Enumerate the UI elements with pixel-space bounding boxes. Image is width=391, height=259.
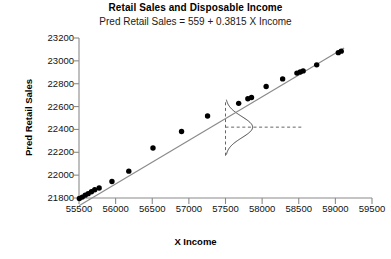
data-point	[179, 129, 184, 134]
data-point	[236, 101, 241, 106]
data-point	[96, 185, 101, 190]
x-axis-ticks	[79, 198, 372, 204]
data-point	[300, 68, 305, 73]
data-point	[263, 84, 268, 89]
plot-area	[0, 0, 391, 259]
data-points	[77, 48, 344, 201]
data-point	[205, 113, 210, 118]
data-point	[126, 168, 131, 173]
data-point	[280, 76, 285, 81]
data-point	[109, 179, 114, 184]
axes	[73, 38, 372, 204]
y-axis-ticks	[73, 38, 79, 198]
data-point	[150, 145, 155, 150]
chart-figure: Retail Sales and Disposable Income Pred …	[0, 0, 391, 259]
data-point	[249, 95, 254, 100]
data-point	[339, 48, 344, 53]
data-point	[314, 62, 319, 67]
annotations	[226, 100, 304, 156]
